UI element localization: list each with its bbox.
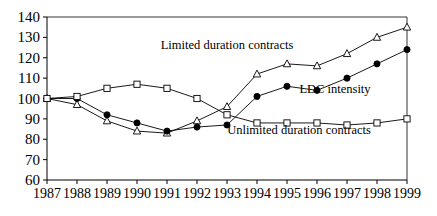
- data-point: [343, 50, 350, 57]
- y-tick-label: 130: [18, 30, 41, 45]
- data-point: [254, 93, 260, 99]
- data-point: [374, 61, 380, 67]
- x-axis-ticks: [47, 180, 407, 184]
- y-tick-label: 100: [18, 92, 41, 107]
- series-annotation-label: LDC intensity: [299, 83, 370, 96]
- data-point: [164, 128, 170, 134]
- data-point: [193, 117, 200, 124]
- data-point: [104, 112, 110, 118]
- series-annotation-label: Limited duration contracts: [161, 39, 294, 52]
- series-annotation-label: Unlimited duration contracts: [227, 124, 371, 137]
- data-point: [134, 81, 140, 87]
- data-point: [403, 23, 410, 30]
- data-point: [404, 116, 410, 122]
- y-tick-label: 70: [25, 153, 40, 168]
- line-chart-plot: [0, 0, 437, 216]
- chart-container: 6070809010011012013014019871988198919901…: [0, 0, 437, 216]
- data-point: [104, 85, 110, 91]
- data-point: [44, 95, 50, 101]
- data-point: [74, 93, 80, 99]
- y-tick-label: 120: [18, 51, 41, 66]
- y-tick-label: 80: [25, 132, 40, 147]
- data-point: [374, 120, 380, 126]
- data-point: [284, 83, 290, 89]
- data-point: [194, 95, 200, 101]
- y-tick-label: 110: [18, 71, 40, 86]
- data-point: [164, 85, 170, 91]
- data-point: [283, 60, 290, 67]
- data-point: [344, 75, 350, 81]
- x-tick-label: 1999: [387, 187, 427, 201]
- y-tick-label: 90: [25, 112, 40, 127]
- data-point: [224, 112, 230, 118]
- data-point: [404, 47, 410, 53]
- y-tick-label: 140: [18, 10, 41, 25]
- data-point: [194, 124, 200, 130]
- data-point: [134, 120, 140, 126]
